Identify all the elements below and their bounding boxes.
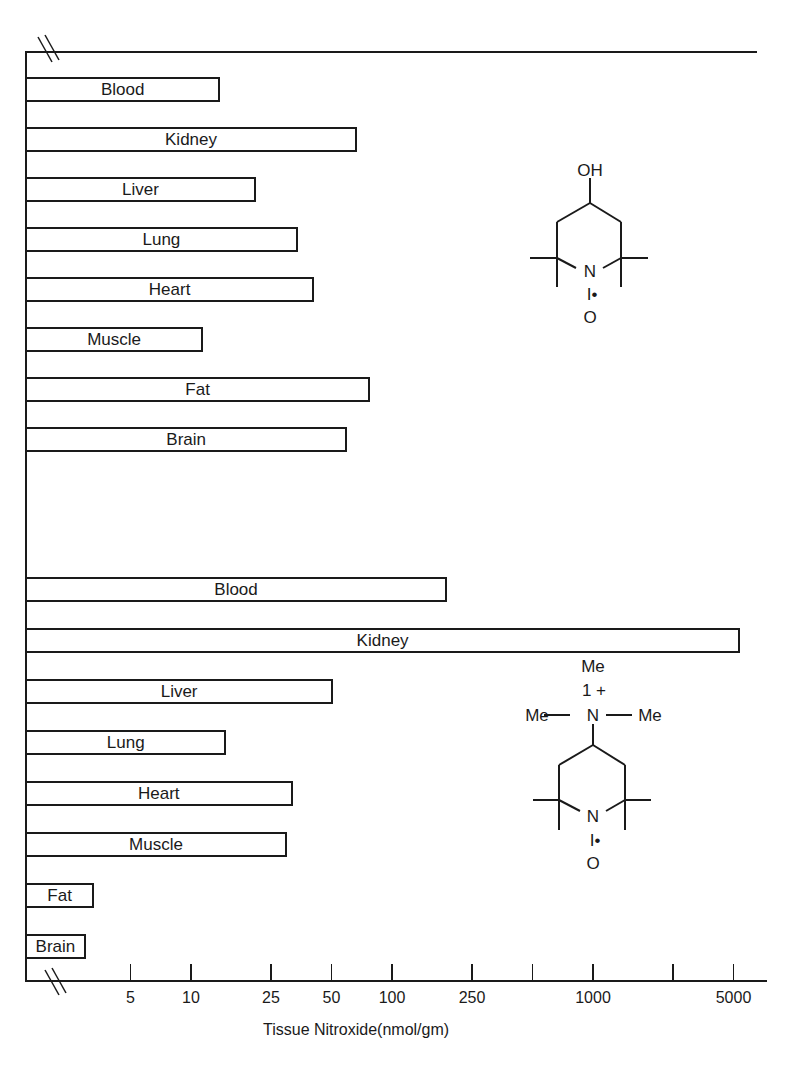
mol2-o-label: O [586,854,599,873]
mol1-n-label: N [584,262,596,281]
mol2-amine-n-label: N [587,706,599,725]
mol2-me-left-label: Me [525,706,549,725]
mol2-me-right-label: Me [638,706,662,725]
structure-overlay: OH N I• O Me 1 + Me N Me N I• O [0,0,797,1081]
mol1-o-label: O [583,308,596,327]
tissue-nitroxide-chart: BloodKidneyLiverLungHeartMuscleFatBrainB… [0,0,797,1081]
mol2-me-top-label: Me [581,657,605,676]
mol2-charge-label: 1 + [582,681,606,700]
mol2-radical-label: I• [590,831,601,850]
mol2-n-label: N [587,807,599,826]
axis-break-icon-top [38,35,59,62]
mol1-radical-label: I• [587,285,598,304]
axis-break-icon-bottom [45,968,66,995]
mol1-oh-label: OH [577,161,603,180]
